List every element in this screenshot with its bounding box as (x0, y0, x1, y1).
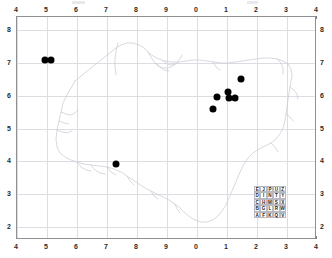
x-axis-tick-label-top: 4 (314, 6, 318, 13)
y-axis-tick-label-left: 2 (7, 222, 11, 229)
x-axis-tick-label-top: 4 (14, 6, 18, 13)
x-axis-tick-label-top: 1 (224, 6, 228, 13)
x-axis-tick-label-top: 5 (44, 6, 48, 13)
x-axis-tick-label-bottom: 4 (14, 243, 18, 250)
x-axis-tick-label-bottom: 3 (284, 243, 288, 250)
x-axis-tick-label-bottom: 4 (314, 243, 318, 250)
x-axis-tick-label-bottom: 7 (104, 243, 108, 250)
y-axis-tick-label-right: 6 (320, 91, 324, 98)
y-axis-tick-label-left: 4 (7, 157, 11, 164)
data-point-marker (232, 95, 239, 102)
x-axis-tick-mark-top (316, 16, 317, 19)
grid-reference-letter-legend: EJPUZDINTYCHMSXBGLRWAFKQV (254, 186, 286, 218)
x-axis-tick-label-bottom: 1 (224, 243, 228, 250)
y-axis-tick-label-left: 8 (7, 26, 11, 33)
y-axis-tick-label-right: 5 (320, 124, 324, 131)
x-axis-tick-label-top: 9 (164, 6, 168, 13)
x-axis-tick-label-top: 3 (284, 6, 288, 13)
data-point-marker (214, 94, 221, 101)
y-axis-tick-label-left: 3 (7, 190, 11, 197)
y-axis-tick-label-left: 6 (7, 91, 11, 98)
x-axis-tick-label-top: 2 (254, 6, 258, 13)
top-ghost-mark-left (72, 1, 85, 4)
data-point-marker (113, 160, 120, 167)
y-axis-tick-label-right: 4 (320, 157, 324, 164)
top-ghost-mark-right (247, 1, 258, 4)
x-axis-tick-label-bottom: 8 (134, 243, 138, 250)
y-axis-tick-label-left: 7 (7, 58, 11, 65)
x-axis-tick-mark-bottom (316, 236, 317, 239)
x-axis-tick-label-bottom: 2 (254, 243, 258, 250)
y-axis-tick-label-left: 5 (7, 124, 11, 131)
distribution-map-figure: 445566778899001122334488776655443322 (0, 0, 332, 258)
x-axis-tick-label-bottom: 6 (74, 243, 78, 250)
data-point-marker (209, 106, 216, 113)
x-axis-tick-label-top: 0 (194, 6, 198, 13)
data-point-marker (47, 56, 54, 63)
y-axis-tick-label-right: 7 (320, 58, 324, 65)
x-axis-tick-label-bottom: 9 (164, 243, 168, 250)
legend-grid-cell: V (280, 212, 286, 218)
y-axis-tick-label-right: 8 (320, 26, 324, 33)
x-axis-tick-label-bottom: 0 (194, 243, 198, 250)
x-axis-tick-label-top: 6 (74, 6, 78, 13)
data-point-marker (237, 75, 244, 82)
x-axis-tick-label-bottom: 5 (44, 243, 48, 250)
y-axis-tick-label-right: 3 (320, 190, 324, 197)
y-axis-tick-label-right: 2 (320, 222, 324, 229)
x-axis-tick-label-top: 8 (134, 6, 138, 13)
x-axis-tick-label-top: 7 (104, 6, 108, 13)
